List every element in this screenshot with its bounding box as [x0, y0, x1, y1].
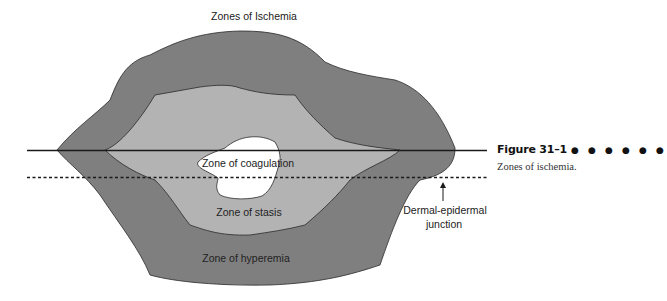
label-zone-coagulation: Zone of coagulation [202, 157, 294, 169]
label-junction-line2: junction [426, 218, 462, 230]
figure-number: Figure 31–1● ● ● ● ● ● [497, 143, 667, 156]
junction-arrow-head [440, 182, 446, 188]
label-junction-line1: Dermal-epidermal [403, 204, 486, 216]
figure-number-label: Figure 31–1 [497, 143, 567, 156]
figure-dots-decoration: ● ● ● ● ● ● [571, 145, 667, 155]
label-zone-hyperemia: Zone of hyperemia [202, 252, 290, 264]
label-zone-stasis: Zone of stasis [216, 206, 281, 218]
figure-caption: Zones of ischemia. [497, 161, 577, 172]
diagram-title: Zones of Ischemia [211, 10, 297, 22]
